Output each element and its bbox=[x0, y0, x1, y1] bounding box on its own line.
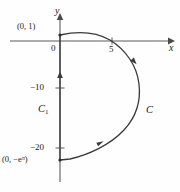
y-tick-label-minus-10: −10 bbox=[30, 83, 44, 92]
y-tick-label-minus-20: −20 bbox=[30, 143, 44, 152]
origin-label: 0 bbox=[51, 44, 56, 53]
point-0-neg-e-pi-suffix: ) bbox=[25, 154, 28, 164]
x-axis-label: x bbox=[169, 43, 173, 53]
figure-container: y x 0 (0, 1) 5 −10 −20 (0, −eπ) C1 C bbox=[0, 0, 180, 192]
curve-c-label: C bbox=[146, 105, 153, 116]
x-tick-label-5: 5 bbox=[109, 45, 114, 54]
curve-c-path bbox=[60, 33, 139, 160]
curve-c1-subscript: 1 bbox=[45, 108, 49, 116]
curve-c1-label: C1 bbox=[38, 104, 49, 116]
curve-c1-path bbox=[57, 35, 63, 160]
x-axis bbox=[10, 38, 175, 45]
point-0-1-label: (0, 1) bbox=[17, 22, 35, 31]
y-axis-label: y bbox=[55, 6, 59, 16]
point-0-neg-e-pi-label: (0, −eπ) bbox=[2, 155, 28, 164]
point-0-neg-e-pi-prefix: (0, −e bbox=[2, 154, 22, 164]
curve-c1-letter: C bbox=[38, 103, 45, 114]
curve-c-letter: C bbox=[146, 104, 153, 115]
